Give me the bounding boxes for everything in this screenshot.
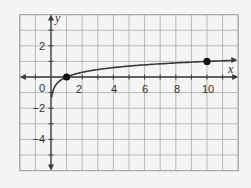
data-point [203, 58, 210, 65]
data-point [63, 73, 70, 80]
x-tick-label-8: 8 [174, 83, 180, 95]
x-tick-label-6: 6 [142, 83, 148, 95]
y-tick-label-neg4: −4 [32, 133, 45, 145]
log-graph: y x 0 2 4 6 8 10 2 −2 −4 [0, 0, 251, 188]
x-tick-label-10: 10 [202, 83, 214, 95]
y-axis-label: y [54, 11, 61, 25]
y-tick-label-neg2: −2 [32, 102, 45, 114]
x-tick-label-4: 4 [111, 83, 117, 95]
y-tick-label-2: 2 [39, 40, 45, 52]
origin-label: 0 [39, 82, 45, 94]
x-axis-label: x [227, 62, 234, 76]
x-tick-label-2: 2 [76, 83, 82, 95]
